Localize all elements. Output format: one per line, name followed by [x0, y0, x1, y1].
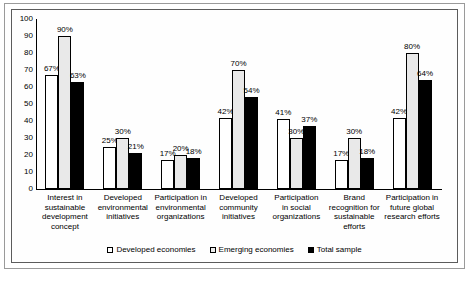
- bar-slot: 67%: [45, 19, 58, 189]
- x-axis-category-label-line: recognition for: [325, 203, 383, 213]
- bar-value-label: 18%: [359, 148, 375, 156]
- x-axis-category-label: Participation infuture globalresearch ef…: [383, 193, 441, 222]
- bar-total: [129, 153, 142, 189]
- x-axis-category-label-line: organizations: [267, 212, 325, 222]
- x-axis-category-label-line: Interest in: [36, 193, 94, 203]
- y-axis-tick-label: 10: [12, 168, 33, 176]
- bars-row: 25%30%21%: [94, 19, 152, 189]
- bar-value-label: 18%: [186, 148, 202, 156]
- x-axis-category-label-line: sustainable: [36, 203, 94, 213]
- bar-total: [245, 97, 258, 189]
- x-axis-category-label-line: research efforts: [383, 212, 441, 222]
- y-axis-tick-label: 100: [12, 15, 33, 23]
- bar-slot: 21%: [129, 19, 142, 189]
- bar-developed: [393, 118, 406, 189]
- x-axis-category-label-line: Brand: [325, 193, 383, 203]
- x-axis-category-label: Participation inenvironmentalorganizatio…: [152, 193, 210, 222]
- bar-slot: 30%: [348, 19, 361, 189]
- bar-slot: 63%: [71, 19, 84, 189]
- chart-plot-frame: 1009080706050403020100 Developed economi…: [11, 9, 458, 263]
- bars-row: 41%30%37%: [267, 19, 325, 189]
- chart-legend: Developed economiesEmerging economiesTot…: [12, 246, 457, 254]
- y-axis-tick-label: 30: [12, 134, 33, 142]
- legend-entry: Total sample: [308, 246, 362, 254]
- bar-developed: [103, 147, 116, 190]
- bar-slot: 54%: [245, 19, 258, 189]
- legend-label: Developed economies: [116, 246, 195, 254]
- bar-total: [419, 80, 432, 189]
- x-axis-category-label-line: initiatives: [210, 212, 268, 222]
- legend-label: Total sample: [317, 246, 362, 254]
- bar-slot: 18%: [361, 19, 374, 189]
- bar-slot: 42%: [219, 19, 232, 189]
- x-axis-category-label-line: initiatives: [94, 212, 152, 222]
- bar-group: 25%30%21%: [94, 19, 152, 189]
- bar-total: [361, 158, 374, 189]
- legend-label: Emerging economies: [219, 246, 294, 254]
- x-axis-category-label-line: community: [210, 203, 268, 213]
- x-axis-category-label: Brandrecognition forsustainableefforts: [325, 193, 383, 231]
- y-axis-tick-label: 20: [12, 151, 33, 159]
- bars-row: 42%80%64%: [383, 19, 441, 189]
- bars-row: 67%90%63%: [36, 19, 94, 189]
- bar-total: [187, 158, 200, 189]
- x-axis-category-label-line: Developed: [210, 193, 268, 203]
- bar-developed: [45, 75, 58, 189]
- bar-slot: 17%: [335, 19, 348, 189]
- bar-value-label: 54%: [243, 87, 259, 95]
- x-axis-category-label-line: Developed: [94, 193, 152, 203]
- bar-value-label: 37%: [301, 116, 317, 124]
- x-axis-category-label-line: organizations: [152, 212, 210, 222]
- bar-slot: 41%: [277, 19, 290, 189]
- x-axis-category-label-line: Participation: [267, 193, 325, 203]
- bar-emerging: [348, 138, 361, 189]
- bar-group: 42%80%64%: [383, 19, 441, 189]
- y-axis-tick-label: 90: [12, 32, 33, 40]
- x-axis-category-label-line: environmental: [94, 203, 152, 213]
- x-axis-category-label: Developedcommunityinitiatives: [210, 193, 268, 222]
- bar-group: 42%70%54%: [210, 19, 268, 189]
- legend-entry: Emerging economies: [210, 246, 294, 254]
- bar-developed: [161, 160, 174, 189]
- bar-slot: 30%: [116, 19, 129, 189]
- bar-slot: 18%: [187, 19, 200, 189]
- bar-group: 67%90%63%: [36, 19, 94, 189]
- bars-row: 42%70%54%: [210, 19, 268, 189]
- bar-developed: [335, 160, 348, 189]
- bars-row: 17%20%18%: [152, 19, 210, 189]
- x-axis-category-label-line: concept: [36, 222, 94, 232]
- x-axis-category-label: Participationin socialorganizations: [267, 193, 325, 222]
- bar-value-label: 64%: [417, 70, 433, 78]
- bar-emerging: [290, 138, 303, 189]
- bar-group: 17%30%18%: [325, 19, 383, 189]
- x-axis-category-label-line: future global: [383, 203, 441, 213]
- bar-slot: 90%: [58, 19, 71, 189]
- y-axis-tick-label: 40: [12, 117, 33, 125]
- x-axis-category-label-line: efforts: [325, 222, 383, 232]
- y-axis-tick-label: 0: [12, 185, 33, 193]
- x-axis-category-label-line: environmental: [152, 203, 210, 213]
- bar-slot: 25%: [103, 19, 116, 189]
- bar-slot: 20%: [174, 19, 187, 189]
- x-axis-category-label-line: Participation in: [152, 193, 210, 203]
- bar-slot: 80%: [406, 19, 419, 189]
- x-axis-category-label-line: Participation in: [383, 193, 441, 203]
- bar-slot: 17%: [161, 19, 174, 189]
- y-axis-tick-label: 50: [12, 100, 33, 108]
- bar-slot: 70%: [232, 19, 245, 189]
- gray-square-icon: [210, 247, 216, 253]
- bar-total: [71, 82, 84, 189]
- x-axis-category-label: Developedenvironmentalinitiatives: [94, 193, 152, 222]
- bar-total: [303, 126, 316, 189]
- bar-slot: 30%: [290, 19, 303, 189]
- x-axis-category-label-line: development: [36, 212, 94, 222]
- white-square-icon: [107, 247, 113, 253]
- bar-slot: 37%: [303, 19, 316, 189]
- bar-value-label: 63%: [70, 72, 86, 80]
- bar-emerging: [58, 36, 71, 189]
- y-axis-tick-label: 60: [12, 83, 33, 91]
- chart-figure: 1009080706050403020100 Developed economi…: [4, 3, 465, 269]
- bar-value-label: 21%: [128, 143, 144, 151]
- x-axis-category-label: Interest insustainabledevelopmentconcept: [36, 193, 94, 231]
- bars-row: 17%30%18%: [325, 19, 383, 189]
